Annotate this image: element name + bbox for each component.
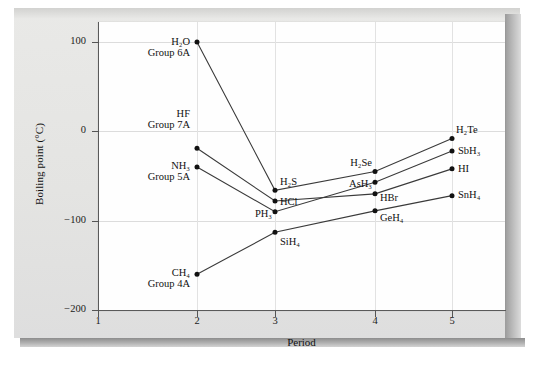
y-tick-neg100 bbox=[92, 221, 99, 222]
x-axis-line bbox=[98, 310, 506, 311]
gridline-y-neg100 bbox=[98, 221, 505, 222]
figure-card-top-edge bbox=[14, 8, 520, 18]
annotation-h2te: H₂Te bbox=[456, 124, 478, 135]
y-tick-label-100: 100 bbox=[46, 35, 86, 46]
x-tick-label-2: 2 bbox=[187, 315, 207, 326]
annotation-nh3-formula: NH₃ bbox=[171, 160, 190, 171]
x-tick-label-5: 5 bbox=[442, 315, 462, 326]
y-tick-0 bbox=[92, 131, 99, 132]
figure-card-right-shadow bbox=[505, 14, 521, 344]
y-tick-100 bbox=[92, 42, 99, 43]
annotation-ph3: PH₃ bbox=[236, 208, 272, 219]
annotation-nh3-group: Group 5A bbox=[118, 171, 190, 182]
x-tick-label-3: 3 bbox=[265, 315, 285, 326]
y-axis-line bbox=[98, 22, 99, 311]
annotation-h2o: H₂O Group 6A bbox=[122, 36, 190, 59]
annotation-h2o-group: Group 6A bbox=[122, 47, 190, 58]
annotation-hf-group: Group 7A bbox=[122, 119, 190, 130]
annotation-h2s: H₂S bbox=[280, 176, 297, 187]
gridline-x-period-2 bbox=[197, 22, 198, 311]
gridline-x-period-4 bbox=[375, 22, 376, 311]
x-tick-label-1: 1 bbox=[88, 315, 108, 326]
annotation-nh3: NH₃ Group 5A bbox=[118, 160, 190, 183]
y-tick-label-neg100: −100 bbox=[46, 214, 86, 225]
x-tick-label-4: 4 bbox=[365, 315, 385, 326]
annotation-sbh3: SbH₃ bbox=[458, 145, 480, 156]
y-axis-title: Boiling point (°C) bbox=[33, 99, 45, 229]
annotation-ch4: CH₄ Group 4A bbox=[118, 267, 190, 290]
gridline-y-0 bbox=[98, 131, 505, 132]
annotation-snh4: SnH₄ bbox=[458, 189, 480, 200]
annotation-hcl: HCl bbox=[280, 196, 298, 207]
boiling-point-chart-figure: 100 0 −100 −200 1 2 3 4 5 Boiling point … bbox=[0, 0, 543, 375]
annotation-ch4-group: Group 4A bbox=[118, 278, 190, 289]
y-tick-label-neg200: −200 bbox=[46, 303, 86, 314]
y-tick-label-0: 0 bbox=[46, 124, 86, 135]
annotation-geh4: GeH₄ bbox=[380, 212, 404, 223]
annotation-ash3: AsH₃ bbox=[318, 178, 372, 189]
annotation-sih4: SiH₄ bbox=[280, 236, 300, 247]
annotation-hf: HF Group 7A bbox=[122, 108, 190, 131]
gridline-x-period-5 bbox=[452, 22, 453, 311]
annotation-hi: HI bbox=[458, 163, 469, 174]
annotation-h2o-formula: H₂O bbox=[171, 36, 190, 47]
annotation-h2se: H₂Se bbox=[324, 157, 372, 168]
annotation-ch4-formula: CH₄ bbox=[172, 267, 190, 278]
annotation-hbr: HBr bbox=[380, 192, 398, 203]
x-axis-title: Period bbox=[98, 336, 505, 348]
gridline-x-period-3 bbox=[275, 22, 276, 311]
annotation-hf-formula: HF bbox=[177, 108, 190, 119]
